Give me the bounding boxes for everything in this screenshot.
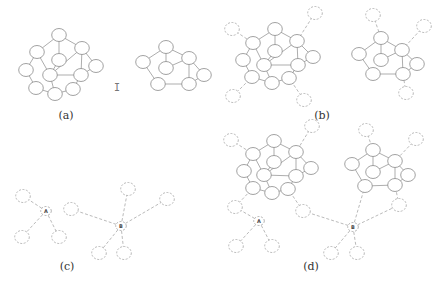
graph-d-right-node xyxy=(366,166,381,179)
graph-d-left-node xyxy=(289,146,304,159)
graph-d-left-dashed-node xyxy=(224,134,239,147)
graph-b-left-node xyxy=(268,45,283,58)
graph-b-left-node xyxy=(290,35,305,48)
panel-label-a: (a) xyxy=(58,109,73,122)
graph-b-left-dashed-node xyxy=(226,90,241,103)
star-a-leaf-node xyxy=(15,231,30,244)
panel-label-d: (d) xyxy=(303,260,319,273)
graph-d-left-node xyxy=(289,170,304,183)
star-b-leaf-node xyxy=(64,203,79,216)
graph-b-right-node xyxy=(374,32,389,45)
graph-b-right-node xyxy=(352,48,367,61)
graph-d-left-node xyxy=(304,162,319,175)
graph-d-star-a-leaf-node xyxy=(229,240,244,253)
graph-d-hub-label-b: B xyxy=(351,224,355,230)
graph-d-star-b-leaf-node xyxy=(350,247,365,260)
panel-label-b: (b) xyxy=(314,109,330,122)
graph-a-left-node xyxy=(66,83,81,96)
graph-d-star-a-leaf-node xyxy=(265,240,280,253)
graph-d-left-node xyxy=(246,182,261,195)
graph-d-left-dashed-node xyxy=(296,205,311,218)
graph-a-left-node xyxy=(52,29,67,42)
star-a-leaf-node xyxy=(16,190,31,203)
graph-b-left-node xyxy=(268,23,283,36)
graph-b-left-node xyxy=(245,71,260,84)
graph-b-left-node xyxy=(291,59,306,72)
graph-a-left-node xyxy=(89,60,104,73)
graph-a-left-node xyxy=(30,46,45,59)
graph-b-left-dashed-node xyxy=(297,94,312,107)
graph-d-left-dashed-node xyxy=(228,201,243,214)
graph-d-star-b-edge xyxy=(303,211,353,227)
graph-a-right-node xyxy=(182,78,197,91)
graph-a-right-node xyxy=(159,41,174,54)
graph-b-right-dashed-node xyxy=(366,9,381,22)
graph-d-left-node xyxy=(237,165,252,178)
star-b-leaf-node xyxy=(92,247,107,260)
star-b-leaf-node xyxy=(160,193,175,206)
graph-a-left-node xyxy=(48,88,63,101)
nodes-layer xyxy=(15,7,432,260)
graph-d-right-node xyxy=(358,180,373,193)
graph-d-right-dashed-node xyxy=(409,133,424,146)
graph-b-left-node xyxy=(306,51,321,64)
labels-layer: (a) (b) (c) (d) I ABAB xyxy=(44,82,355,273)
graph-b-left-node xyxy=(282,72,297,85)
panel-label-c: (c) xyxy=(60,260,75,273)
graph-b-left-dashed-node xyxy=(225,23,240,36)
graph-b-right-node xyxy=(374,54,389,67)
graph-d-right-dashed-node xyxy=(359,124,374,137)
graph-a-left-node xyxy=(19,64,34,77)
graph-d-left-node xyxy=(267,135,282,148)
graph-a-left-node xyxy=(74,69,89,82)
figure-canvas: (a) (b) (c) (d) I ABAB xyxy=(0,0,445,288)
graph-d-hub-label-a: A xyxy=(257,218,261,224)
graph-a-right-node xyxy=(151,78,166,91)
graph-a-right-node xyxy=(136,56,151,69)
graph-d-left-node xyxy=(267,156,282,169)
hub-label-a: A xyxy=(44,208,48,214)
graph-d-right-node xyxy=(401,169,416,182)
graph-b-left-node xyxy=(265,77,280,90)
graph-d-left-node xyxy=(257,169,272,182)
graph-b-right-node xyxy=(395,44,410,57)
graph-d-left-node xyxy=(246,148,261,161)
graph-d-right-node xyxy=(366,144,381,157)
graph-a-right-node xyxy=(159,62,174,75)
graph-b-right-node xyxy=(410,58,425,71)
graph-a-left-node xyxy=(52,54,67,67)
star-a-leaf-node xyxy=(52,231,67,244)
graph-a-left-node xyxy=(29,82,44,95)
graph-b-left-node xyxy=(246,37,261,50)
graph-d-left-node xyxy=(281,183,296,196)
graph-d-left-node xyxy=(265,187,280,200)
graph-b-left-dashed-node xyxy=(308,7,323,20)
graph-b-left-node xyxy=(257,59,272,72)
hub-label-b: B xyxy=(119,223,123,229)
graph-b-right-dashed-node xyxy=(417,20,432,33)
graph-a-left-node xyxy=(43,69,58,82)
text-cursor-icon: I xyxy=(114,82,120,93)
graph-b-right-dashed-node xyxy=(399,87,414,100)
star-b-edge xyxy=(71,209,121,226)
graph-d-star-b-leaf-node xyxy=(324,247,339,260)
graph-b-left-node xyxy=(236,54,251,67)
graph-d-right-dashed-node xyxy=(392,199,407,212)
graph-d-star-b-edge xyxy=(353,205,399,227)
graph-d-right-node xyxy=(345,158,360,171)
graph-b-right-node xyxy=(396,68,411,81)
star-b-edge xyxy=(121,199,167,226)
graph-d-right-node xyxy=(388,155,403,168)
graph-a-right-node xyxy=(197,69,212,82)
graph-d-right-node xyxy=(388,179,403,192)
star-b-leaf-node xyxy=(117,247,132,260)
graph-a-right-node xyxy=(182,52,197,65)
graph-a-left-node xyxy=(75,42,90,55)
star-b-leaf-node xyxy=(121,183,136,196)
graph-b-right-node xyxy=(366,68,381,81)
